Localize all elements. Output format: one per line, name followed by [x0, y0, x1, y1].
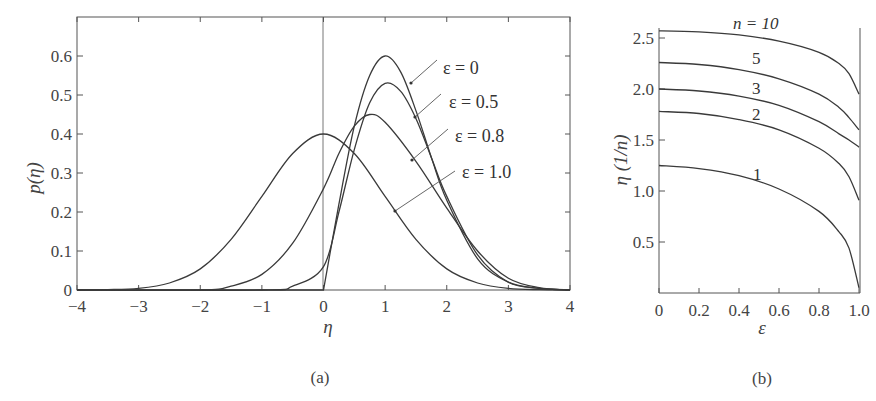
- x-tick-label: 3: [504, 297, 513, 316]
- x-tick-label: −3: [130, 297, 148, 316]
- curve-2: [77, 83, 570, 290]
- figure: −4−3−2−101234 00.10.20.30.40.50.6 ε = 0 …: [0, 0, 876, 401]
- y-tick-label: 2.0: [633, 80, 654, 99]
- y-tick-label: 0.4: [51, 125, 73, 144]
- label-eps-05: ε = 0.5: [449, 92, 498, 112]
- y-tick-label: 1.0: [633, 182, 654, 201]
- chart-a-x-title: η: [323, 316, 332, 337]
- label-n-5: 5: [752, 49, 761, 68]
- label-n-1: 1: [753, 165, 762, 184]
- label-n-2: 2: [752, 105, 761, 124]
- y-tick-label: 0: [64, 281, 73, 300]
- curve-4: [659, 111, 859, 200]
- x-tick-label: 1: [381, 297, 390, 316]
- chart-a-y-title: p(η): [23, 162, 45, 196]
- chart-a-panel-label: (a): [311, 368, 330, 387]
- y-tick-label: 0.5: [633, 233, 654, 252]
- x-tick-label: −2: [191, 297, 209, 316]
- chart-b-panel-label: (b): [752, 369, 772, 388]
- leader-eps-10-dot: [393, 209, 396, 212]
- label-eps-0: ε = 0: [443, 58, 479, 78]
- leader-eps-0-dot: [409, 81, 412, 84]
- x-tick-label: 0.6: [768, 301, 789, 320]
- x-tick-label: 4: [566, 297, 575, 316]
- y-tick-label: 0.3: [51, 164, 72, 183]
- leader-eps-05-dot: [413, 115, 416, 118]
- y-tick-label: 0.5: [51, 86, 72, 105]
- label-eps-08: ε = 0.8: [455, 126, 504, 146]
- x-tick-label: 0.8: [808, 301, 829, 320]
- leader-eps-08-dot: [410, 158, 413, 161]
- chart-a-frame: [77, 17, 570, 290]
- y-tick-label: 0.1: [51, 242, 72, 261]
- y-tick-label: 0.6: [51, 47, 72, 66]
- x-tick-label: 2: [443, 297, 452, 316]
- leader-eps-10: [395, 171, 455, 211]
- chart-a: −4−3−2−101234 00.10.20.30.40.50.6 ε = 0 …: [23, 17, 575, 387]
- label-n-3: 3: [752, 79, 761, 98]
- chart-b-x-title: ε: [758, 317, 766, 338]
- chart-b-y-title: η (1/n): [610, 134, 632, 185]
- y-tick-label: 2.5: [633, 29, 654, 48]
- y-tick-label: 0.2: [51, 203, 72, 222]
- x-tick-label: 1.0: [848, 301, 869, 320]
- leader-eps-0: [411, 60, 437, 83]
- label-n-10: n = 10: [733, 14, 779, 33]
- x-tick-label: −1: [253, 297, 271, 316]
- leader-eps-05: [415, 94, 441, 117]
- x-tick-label: 0.4: [728, 301, 750, 320]
- x-tick-label: 0: [655, 301, 664, 320]
- x-tick-label: 0.2: [688, 301, 709, 320]
- y-tick-label: 1.5: [633, 131, 654, 150]
- x-tick-label: 0: [319, 297, 328, 316]
- label-eps-10: ε = 1.0: [462, 162, 511, 182]
- chart-b-curves: [659, 31, 859, 288]
- chart-b: 00.20.40.60.81.0 0.51.01.52.02.5 n = 10 …: [610, 14, 870, 388]
